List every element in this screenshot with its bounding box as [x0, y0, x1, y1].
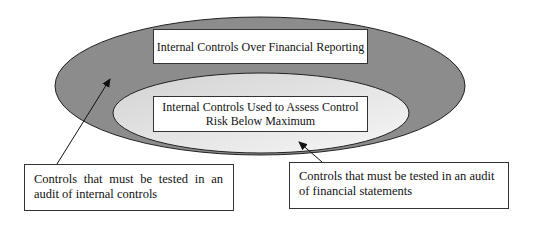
label-box-assess-risk: Internal Controls Used to Assess Control…	[153, 96, 368, 132]
label-box-icfr: Internal Controls Over Financial Reporti…	[153, 29, 368, 64]
callout-box-financial-statement-audit: Controls that must be tested in an audit…	[289, 162, 509, 209]
label-assess-risk-text: Internal Controls Used to Assess Control…	[160, 100, 361, 128]
label-icfr-text: Internal Controls Over Financial Reporti…	[157, 40, 364, 54]
callout-internal-control-audit-text: Controls that must be tested in an audit…	[34, 172, 223, 201]
callout-financial-statement-audit-text: Controls that must be tested in an audit…	[299, 169, 494, 198]
callout-box-internal-control-audit: Controls that must be tested in an audit…	[24, 164, 234, 211]
